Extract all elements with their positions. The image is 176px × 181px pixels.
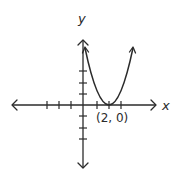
y-axis-label: y [77,11,86,26]
parabola-curve [85,48,133,105]
graph: y x (2, 0) [0,0,176,181]
x-axis-label: x [161,98,170,113]
vertex-label: (2, 0) [96,111,128,125]
